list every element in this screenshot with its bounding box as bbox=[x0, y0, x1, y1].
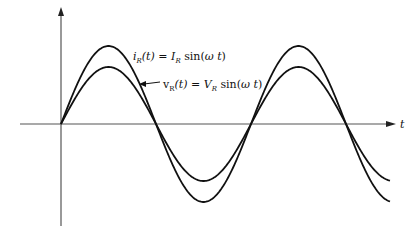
current-label: iR(t) = IR sin(ω t) bbox=[133, 50, 226, 65]
voltage-label: vR(t) = VR sin(ω t) bbox=[162, 78, 262, 93]
y-axis-arrow-icon bbox=[58, 7, 64, 16]
x-axis-label: t bbox=[400, 118, 405, 131]
x-axis-arrow-icon bbox=[386, 121, 396, 127]
voltage-pointer bbox=[144, 82, 160, 84]
sine-diagram: t iR(t) = IR sin(ω t) vR(t) = VR sin(ω t… bbox=[0, 0, 419, 236]
